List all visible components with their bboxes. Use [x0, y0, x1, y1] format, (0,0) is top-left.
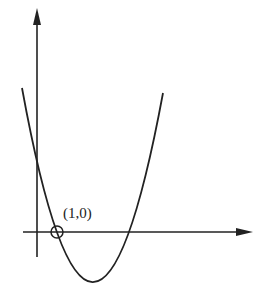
- parabola-diagram: (1,0): [0, 0, 268, 298]
- point-label: (1,0): [63, 205, 92, 222]
- parabola-curve: [22, 88, 163, 282]
- x-axis-arrow-icon: [236, 228, 253, 236]
- y-axis: [33, 8, 41, 257]
- y-axis-arrow-icon: [33, 8, 41, 25]
